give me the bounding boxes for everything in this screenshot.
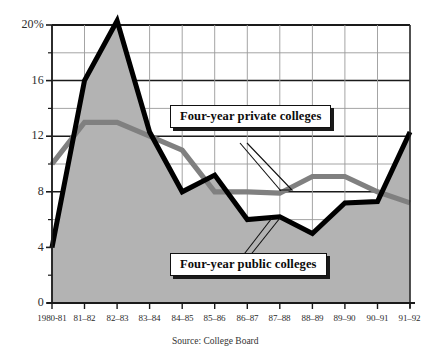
callout-public-colleges: Four-year public colleges bbox=[170, 253, 327, 276]
y-tick-label-4: 4 bbox=[8, 240, 44, 255]
y-tick-label-0: 0 bbox=[8, 295, 44, 310]
source-note: Source: College Board bbox=[172, 336, 259, 346]
x-tick-label-91-92: 91–92 bbox=[385, 313, 434, 323]
tuition-increase-line-chart bbox=[0, 0, 439, 359]
y-tick-label-12: 12 bbox=[8, 128, 44, 143]
chart-figure: 20% 16 12 8 4 0 1980-81 81–82 82–83 83–8… bbox=[0, 0, 439, 359]
y-tick-label-20: 20% bbox=[8, 17, 44, 32]
callout-private-colleges: Four-year private colleges bbox=[170, 105, 331, 128]
y-tick-label-8: 8 bbox=[8, 184, 44, 199]
y-tick-label-16: 16 bbox=[8, 73, 44, 88]
